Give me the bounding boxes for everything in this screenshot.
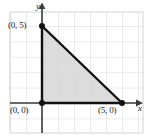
vertex-label-top: (0, 5) [8, 21, 26, 30]
vertex-label-origin: (0, 0) [10, 106, 28, 115]
coordinate-plane-figure: (0, 5) (0, 0) (5, 0) y x [0, 0, 148, 139]
x-axis-label: x [138, 104, 142, 113]
vertex-dot-origin [39, 100, 45, 106]
vertex-dot-top [39, 23, 45, 29]
vertex-dot-right [119, 100, 125, 106]
vertex-label-right: (5, 0) [98, 106, 116, 115]
y-axis-label: y [36, 2, 40, 11]
